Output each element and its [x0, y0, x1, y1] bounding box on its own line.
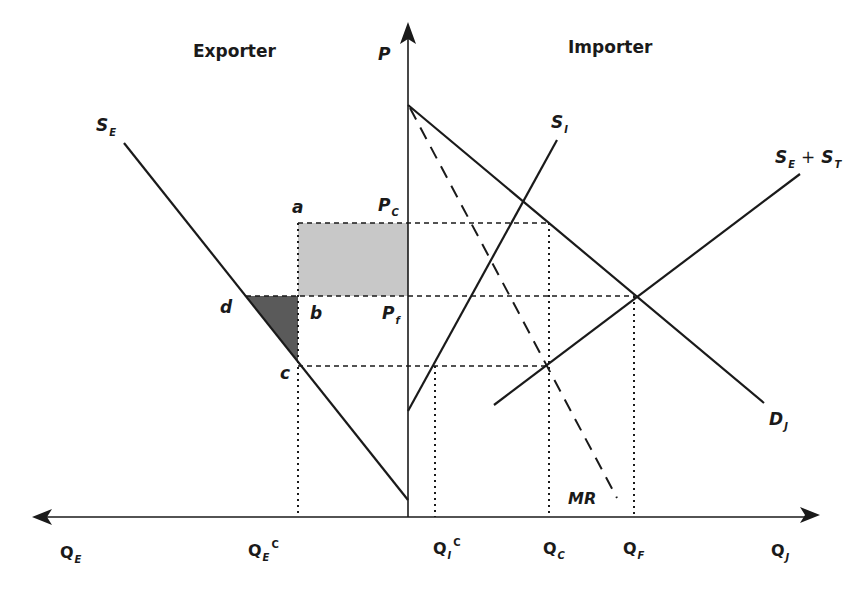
exporter-supply-curve — [124, 143, 408, 500]
qic-label: QIC — [433, 539, 461, 558]
s-letter: S — [96, 115, 108, 135]
s-letter: S — [821, 147, 833, 167]
q-letter: Q — [60, 543, 74, 562]
d-letter: D — [769, 409, 783, 429]
q-letter: Q — [248, 541, 262, 560]
s-subscript: T — [834, 159, 841, 170]
q-letter: Q — [771, 541, 785, 560]
point-c-label: c — [280, 363, 290, 383]
q-subscript: J — [786, 552, 790, 563]
qec-label: QEC — [248, 541, 279, 560]
price-axis-label: P — [378, 44, 390, 64]
q-superscript: C — [453, 537, 460, 548]
d-subscript: J — [784, 421, 788, 432]
q-subscript: C — [558, 550, 565, 561]
s-subscript: E — [109, 127, 116, 138]
importer-demand-curve — [408, 105, 764, 403]
q-subscript: E — [75, 554, 82, 565]
point-d-label: d — [220, 297, 232, 317]
combined-supply-label: SE + ST — [775, 147, 841, 167]
point-b-label: b — [310, 303, 322, 323]
right-axis-arrow-icon — [800, 507, 820, 523]
q-superscript: C — [271, 539, 278, 550]
light-shaded-area — [298, 223, 408, 296]
q-subscript: E — [263, 552, 270, 563]
marginal-revenue-label: MR — [568, 489, 596, 508]
price-free-label: Pf — [382, 303, 400, 323]
trade-diagram — [0, 0, 856, 598]
q-subscript: I — [448, 550, 452, 561]
quantity-importer-label: QJ — [771, 541, 789, 560]
p-subscript: C — [391, 207, 398, 218]
qf-label: QF — [623, 539, 644, 558]
importer-supply-curve — [408, 140, 557, 411]
s-letter: S — [551, 112, 563, 132]
exporter-supply-label: SE — [96, 115, 116, 135]
importer-title: Importer — [568, 37, 652, 57]
p-letter: P — [382, 303, 394, 323]
point-a-label: a — [292, 197, 303, 217]
s-letter: S — [775, 147, 787, 167]
q-letter: Q — [433, 539, 447, 558]
quantity-exporter-label: QE — [60, 543, 81, 562]
marginal-revenue-curve — [410, 108, 617, 498]
q-letter: Q — [543, 539, 557, 558]
q-subscript: F — [638, 550, 645, 561]
demand-label: DJ — [769, 409, 788, 429]
exporter-title: Exporter — [193, 41, 276, 61]
p-subscript: f — [395, 315, 399, 326]
s-subscript: E — [788, 159, 795, 170]
qc-label: QC — [543, 539, 565, 558]
plus-sign: + — [801, 147, 815, 167]
combined-supply-curve — [494, 174, 800, 405]
price-cartel-label: PC — [378, 195, 399, 215]
importer-supply-label: SI — [551, 112, 568, 132]
p-letter: P — [378, 195, 390, 215]
q-letter: Q — [623, 539, 637, 558]
s-subscript: I — [564, 124, 568, 135]
